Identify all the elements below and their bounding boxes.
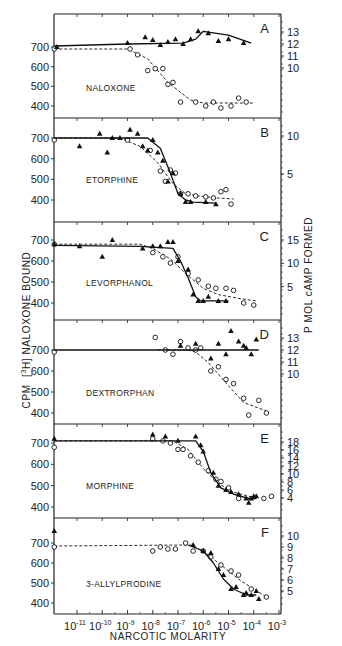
data-point-circle: [166, 547, 171, 552]
data-point-circle: [236, 96, 241, 101]
left-tick-label: 700: [31, 344, 49, 356]
left-tick-label: 700: [31, 437, 49, 449]
data-point-circle: [161, 254, 166, 259]
left-tick-label: 400: [31, 501, 49, 513]
data-point-circle: [216, 365, 221, 370]
data-point-circle: [203, 104, 208, 109]
right-tick-label: 13: [287, 332, 299, 344]
data-point-circle: [211, 196, 216, 201]
data-point-triangle: [193, 434, 199, 439]
figure-canvas: 70060050040013121110ANALOXONE70060050040…: [0, 0, 342, 646]
data-point-triangle: [203, 199, 209, 204]
data-point-circle: [251, 303, 256, 308]
data-point-circle: [229, 202, 234, 207]
data-point-triangle: [77, 143, 83, 148]
data-point-circle: [264, 411, 269, 416]
left-tick-label: 500: [31, 80, 49, 92]
data-point-circle: [135, 53, 140, 58]
data-point-circle: [150, 250, 155, 255]
data-point-triangle: [208, 550, 214, 555]
data-point-circle: [249, 587, 254, 592]
panel-b: 700600500400105BETORPHINE: [31, 118, 300, 216]
data-point-circle: [153, 335, 158, 340]
left-axis-title-pre: CPM: [21, 384, 32, 408]
data-point-triangle: [125, 40, 131, 45]
data-point-triangle: [236, 339, 242, 344]
fit-line-solid: [188, 545, 256, 595]
panel-e: 7006005004001816141210864EMORPHINE: [31, 424, 300, 513]
right-tick-label: 4: [287, 492, 293, 504]
left-tick-label: 400: [31, 194, 49, 206]
drug-name-label: 3-ALLYLPRODINE: [86, 579, 161, 589]
data-point-circle: [158, 169, 163, 174]
left-tick-label: 700: [31, 41, 49, 53]
data-point-triangle: [208, 355, 214, 360]
data-point-triangle: [170, 239, 176, 244]
left-tick-label: 500: [31, 386, 49, 398]
x-tick-label: 10-11: [64, 619, 86, 632]
data-point-circle: [269, 494, 274, 499]
data-point-triangle: [135, 131, 141, 136]
data-point-circle: [173, 547, 178, 552]
right-tick-label: 5: [287, 585, 293, 597]
data-point-circle: [224, 286, 229, 291]
data-point-triangle: [185, 266, 191, 271]
x-tick-label: 10-3: [268, 619, 287, 632]
data-point-circle: [128, 47, 133, 52]
data-point-triangle: [190, 542, 196, 547]
data-point-circle: [193, 100, 198, 105]
data-point-circle: [183, 541, 188, 546]
data-point-circle: [206, 284, 211, 289]
data-point-triangle: [110, 237, 116, 242]
data-point-triangle: [99, 254, 105, 259]
panel-a: 70060050040013121110ANALOXONE: [31, 14, 300, 112]
data-point-triangle: [97, 131, 103, 136]
data-point-triangle: [188, 36, 194, 41]
fit-line-dashed: [54, 49, 254, 103]
panel-letter: F: [261, 525, 269, 540]
data-point-triangle: [150, 243, 156, 248]
data-point-circle: [166, 82, 171, 87]
data-point-triangle: [226, 36, 232, 41]
data-point-triangle: [158, 243, 164, 248]
right-tick-label: 10: [287, 257, 299, 269]
data-point-circle: [168, 261, 173, 266]
left-tick-label: 600: [31, 153, 49, 165]
x-axis-title: NARCOTIC MOLARITY: [110, 631, 226, 642]
data-point-circle: [171, 80, 176, 85]
data-point-triangle: [253, 588, 259, 593]
left-tick-label: 400: [31, 597, 49, 609]
right-tick-label: 10: [287, 368, 299, 380]
drug-name-label: MORPHINE: [86, 481, 134, 491]
left-tick-label: 700: [31, 234, 49, 246]
data-point-circle: [193, 194, 198, 199]
x-tick-label: 10-4: [243, 619, 262, 632]
right-tick-label: 5: [287, 168, 293, 180]
left-tick-label: 500: [31, 173, 49, 185]
data-point-triangle: [256, 596, 262, 601]
right-tick-label: 11: [287, 50, 298, 62]
data-point-triangle: [243, 590, 249, 595]
data-point-circle: [244, 100, 249, 105]
right-axis-title: P MOL cAMP FORMED: [303, 217, 314, 333]
data-point-triangle: [211, 470, 217, 475]
data-point-triangle: [223, 351, 229, 356]
right-tick-label: 10: [287, 130, 299, 142]
data-point-circle: [188, 454, 193, 459]
left-tick-label: 600: [31, 61, 49, 73]
data-point-circle: [224, 187, 229, 192]
panel-f: 7006005004001098765F3-ALLYLPRODINE: [31, 518, 300, 609]
right-tick-label: 15: [287, 234, 299, 246]
data-point-triangle: [173, 36, 179, 41]
panel-c: 70060050040015105CLEVORPHANOL: [31, 222, 300, 314]
drug-name-label: LEVORPHANOL: [86, 278, 153, 288]
data-point-circle: [176, 447, 181, 452]
data-point-triangle: [228, 328, 234, 333]
data-point-circle: [145, 68, 150, 73]
data-point-triangle: [150, 37, 156, 42]
panel-letter: E: [260, 431, 269, 446]
data-point-triangle: [216, 38, 222, 43]
data-point-circle: [196, 278, 201, 283]
data-point-circle: [178, 100, 183, 105]
left-tick-label: 500: [31, 276, 49, 288]
